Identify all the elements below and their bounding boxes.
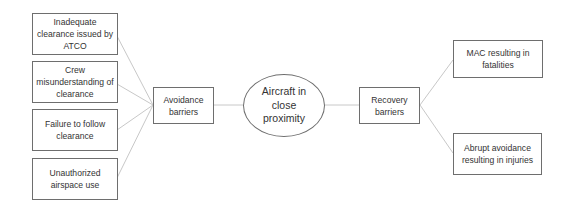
consequence-box-mac-fatalities: MAC resulting in fatalities <box>453 40 543 78</box>
avoidance-barriers-box: Avoidance barriers <box>153 87 214 124</box>
recovery-barriers-label: Recovery barriers <box>369 94 410 118</box>
consequence-label: Abrupt avoidance resulting in injuries <box>460 142 535 166</box>
consequence-label: MAC resulting in fatalities <box>457 47 539 71</box>
cause-box-crew-misunderstanding: Crew misunderstanding of clearance <box>32 61 118 103</box>
connector-cause-4 <box>117 105 153 178</box>
recovery-barriers-box: Recovery barriers <box>359 87 420 124</box>
connector-cause-1 <box>117 36 153 105</box>
central-event-ellipse: Aircraft in close proximity <box>243 74 325 137</box>
connector-recovery-to-consequence-1 <box>420 60 453 105</box>
central-event-label: Aircraft in close proximity <box>252 85 316 126</box>
avoidance-barriers-label: Avoidance barriers <box>162 94 205 118</box>
cause-box-unauthorized-airspace: Unauthorized airspace use <box>32 158 118 200</box>
connector-cause-2 <box>117 84 153 105</box>
cause-label: Crew misunderstanding of clearance <box>36 64 114 100</box>
consequence-box-abrupt-avoidance: Abrupt avoidance resulting in injuries <box>453 133 542 175</box>
cause-box-failure-to-follow: Failure to follow clearance <box>32 109 118 151</box>
connector-cause-3 <box>117 105 153 130</box>
cause-label: Failure to follow clearance <box>36 118 114 142</box>
connector-recovery-to-consequence-2 <box>420 105 453 153</box>
cause-label: Inadequate clearance issued by ATCO <box>36 16 114 52</box>
cause-box-inadequate-clearance: Inadequate clearance issued by ATCO <box>32 13 118 55</box>
cause-label: Unauthorized airspace use <box>36 167 114 191</box>
